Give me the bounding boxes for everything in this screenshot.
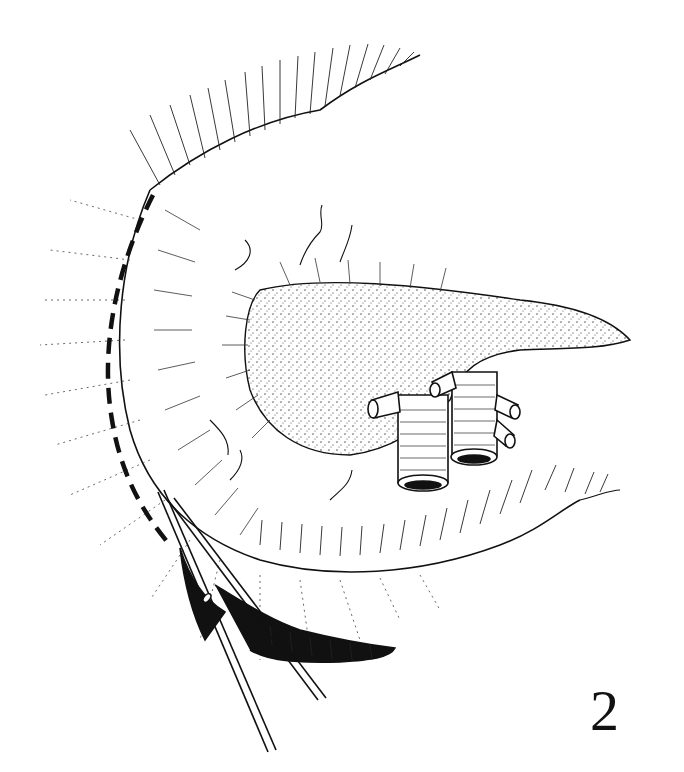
- figure-number-label: 2: [590, 682, 619, 740]
- top-hatching: [130, 44, 414, 185]
- omentum-fold: [215, 585, 395, 662]
- illustration-drawing: [0, 0, 684, 772]
- surgical-illustration: 2: [0, 0, 684, 772]
